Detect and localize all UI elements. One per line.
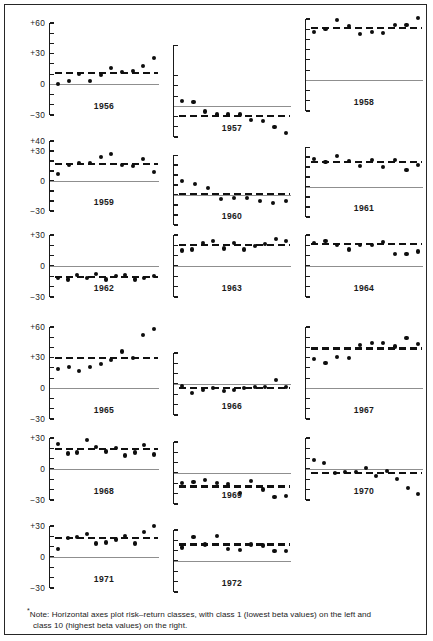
mean-line-segment [77, 357, 84, 359]
mean-line-segment [410, 472, 417, 474]
mean-line-segment [333, 161, 340, 163]
y-axis-tick [306, 378, 310, 379]
data-point [133, 541, 137, 545]
y-axis-tick [306, 59, 310, 60]
mean-line-segment [377, 347, 384, 349]
y-axis-tick [50, 210, 54, 211]
mean-line-segment [179, 115, 186, 117]
data-point [322, 461, 326, 465]
panel-year-label-1967: 1967 [305, 406, 423, 415]
mean-line-segment [377, 27, 384, 29]
data-point [109, 66, 113, 70]
zero-reference-line [174, 266, 291, 267]
y-axis-label: 0 [9, 262, 45, 270]
y-axis-tick [50, 276, 54, 277]
data-point [67, 79, 71, 83]
year-panel-1970: 1970 [305, 438, 423, 500]
y-axis-label: 0 [9, 553, 45, 561]
y-axis-tick [306, 216, 310, 217]
data-point [261, 543, 265, 547]
mean-line-segment [201, 485, 208, 487]
y-axis-tick [50, 296, 54, 297]
year-panel-1963: 1963 [173, 235, 291, 297]
y-axis-tick [306, 418, 310, 419]
y-axis-tick [50, 33, 54, 34]
y-axis-tick [306, 448, 310, 449]
data-point [104, 277, 108, 281]
mean-line-segment [322, 472, 329, 474]
y-axis-tick [306, 245, 310, 246]
mean-line-segment [377, 472, 384, 474]
y-axis-tick [174, 363, 178, 364]
y-axis-label: +30 [9, 147, 45, 155]
mean-line-segment [267, 115, 274, 117]
data-point [94, 541, 98, 545]
data-point [249, 479, 253, 483]
data-point [347, 159, 351, 163]
mean-line-segment [234, 193, 241, 195]
y-axis-tick [50, 326, 54, 327]
data-point [120, 349, 124, 353]
data-point [370, 243, 374, 247]
data-point [370, 158, 374, 162]
data-point [215, 112, 219, 116]
y-axis-label: 0 [9, 384, 45, 392]
data-point [347, 356, 351, 360]
mean-line-segment [256, 193, 263, 195]
data-point [335, 355, 339, 359]
mean-line-segment [267, 485, 274, 487]
mean-line-segment [311, 27, 318, 29]
y-axis-tick [174, 276, 178, 277]
data-point [226, 112, 230, 116]
data-point [253, 385, 257, 389]
data-point [133, 450, 137, 454]
year-panel-1956: +60+300−301956 [49, 23, 159, 115]
y-axis-tick [306, 196, 310, 197]
data-point [114, 537, 118, 541]
y-axis-tick [174, 414, 178, 415]
data-point [141, 157, 145, 161]
mean-line-segment [154, 448, 158, 450]
data-point [242, 386, 246, 390]
data-point [323, 27, 327, 31]
mean-line-segment [245, 193, 252, 195]
mean-line-segment [88, 276, 95, 278]
y-axis-tick [50, 587, 54, 588]
y-axis-label: +30 [9, 434, 45, 442]
y-axis-tick [50, 43, 54, 44]
data-point [152, 170, 156, 174]
zero-reference-line [306, 187, 423, 188]
data-point [393, 252, 397, 256]
data-point [191, 535, 195, 539]
data-point [99, 362, 103, 366]
data-point [404, 168, 408, 172]
mean-line-segment [256, 387, 263, 389]
y-axis-tick [306, 347, 310, 348]
mean-line-segment [355, 161, 362, 163]
y-axis-label: +60 [9, 19, 45, 27]
data-point [88, 365, 92, 369]
data-point [404, 23, 408, 27]
y-axis-label: 0 [9, 465, 45, 473]
y-axis-tick [306, 110, 310, 111]
data-point [77, 369, 81, 373]
y-axis-tick [50, 448, 54, 449]
data-point [274, 237, 278, 241]
mean-line-segment [256, 244, 263, 246]
mean-line-segment [179, 193, 186, 195]
data-point [85, 532, 89, 536]
data-point [56, 442, 60, 446]
y-axis-label: +30 [9, 49, 45, 57]
panel-year-label-1960: 1960 [173, 212, 291, 221]
data-point [416, 249, 420, 253]
y-axis-tick [306, 234, 310, 235]
data-point [152, 524, 156, 528]
data-point [222, 389, 226, 393]
data-point [203, 109, 207, 113]
mean-line-segment [223, 193, 230, 195]
data-point [261, 119, 265, 123]
y-axis-tick [50, 546, 54, 547]
figure-frame: +60+300−30195619571958+40+300−3019591960… [4, 4, 427, 635]
year-panel-1958: 1958 [305, 19, 423, 111]
y-axis-tick [50, 367, 54, 368]
